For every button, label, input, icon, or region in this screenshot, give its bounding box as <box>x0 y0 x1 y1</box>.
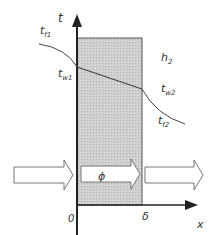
heat-flux-label: ϕ <box>98 170 105 183</box>
fluid1-temperature-curve <box>39 44 77 67</box>
origin-label: 0 <box>68 213 74 224</box>
heat-transfer-diagram: t x 0 δ ϕ tf1 tw1 h2 tw2 tf2 <box>0 0 214 235</box>
t-f1-label: tf1 <box>40 24 51 39</box>
x-axis-arrowhead-icon <box>185 200 198 210</box>
t-axis-arrowhead-icon <box>72 14 82 27</box>
h-2-label: h2 <box>161 51 173 66</box>
t-w2-label: tw2 <box>161 82 176 97</box>
heat-flow-out-arrow-icon <box>145 160 203 190</box>
t-axis-label: t <box>58 11 64 25</box>
x-axis-label: x <box>196 218 204 231</box>
t-w1-label: tw1 <box>58 67 73 82</box>
heat-flow-in-arrow-icon <box>14 160 73 190</box>
thickness-label: δ <box>142 210 149 223</box>
